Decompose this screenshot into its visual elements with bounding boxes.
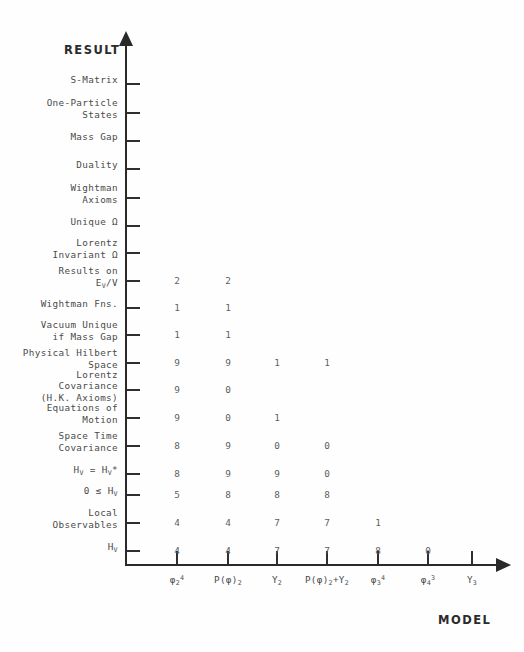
data-cell-hv-phi3-4: 0 <box>425 546 431 556</box>
data-cell-physical-hilbert-space-p-phi-2: 9 <box>225 358 231 368</box>
y-tick-s-matrix <box>127 83 140 85</box>
x-tick-y-3 <box>471 551 473 564</box>
data-cell-local-observables-p-phi-2-plus-y-2: 7 <box>324 518 330 528</box>
x-axis-line <box>125 564 499 566</box>
x-axis-title: MODEL <box>438 612 491 627</box>
data-cell-equations-of-motion-p-phi-2: 0 <box>225 413 231 423</box>
y-tick-wightman-axioms <box>127 197 140 199</box>
data-cell-hv-self-adjoint-p-phi-2-plus-y-2: 0 <box>324 469 330 479</box>
y-axis-label-physical-hilbert-space: Physical HilbertSpace <box>0 347 118 370</box>
y-axis-label-lorentz-invariant-omega: LorentzInvariant Ω <box>0 237 118 260</box>
y-axis-line <box>125 44 127 566</box>
y-tick-duality <box>127 168 140 170</box>
y-tick-hv <box>127 550 140 552</box>
data-cell-physical-hilbert-space-phi4-2: 9 <box>174 358 180 368</box>
y-axis-label-duality: Duality <box>0 159 118 170</box>
data-cell-hv-y-2: 7 <box>274 546 280 556</box>
data-cell-results-on-ev-v-phi4-2: 2 <box>174 276 180 286</box>
x-axis-label-p-phi-2-plus-y-2: P(φ)2+Y2 <box>305 574 349 585</box>
y-axis-arrow-icon <box>119 31 133 46</box>
y-axis-title: RESULT <box>64 42 120 57</box>
y-axis-label-one-particle-states: One-ParticleStates <box>0 97 118 120</box>
data-cell-wightman-fns-phi4-2: 1 <box>174 303 180 313</box>
data-cell-physical-hilbert-space-p-phi-2-plus-y-2: 1 <box>324 358 330 368</box>
x-axis-label-y-3: Y3 <box>467 574 477 585</box>
figure-canvas: RESULT MODEL S-MatrixOne-ParticleStatesM… <box>0 0 524 652</box>
data-cell-lorentz-covariance-phi4-2: 9 <box>174 385 180 395</box>
y-axis-label-hv-positive: 0 ≤ HV <box>0 485 118 496</box>
y-axis-label-results-on-ev-v: Results onEV/V <box>0 265 118 288</box>
data-cell-space-time-covariance-phi4-2: 8 <box>174 441 180 451</box>
y-axis-label-wightman-fns: Wightman Fns. <box>0 298 118 309</box>
x-axis-label-phi4-3: φ34 <box>371 574 386 585</box>
data-cell-local-observables-phi4-3: 1 <box>375 518 381 528</box>
data-cell-lorentz-covariance-p-phi-2: 0 <box>225 385 231 395</box>
data-cell-hv-self-adjoint-y-2: 9 <box>274 469 280 479</box>
y-axis-label-hv: HV <box>0 541 118 552</box>
y-axis-label-mass-gap: Mass Gap <box>0 131 118 142</box>
data-cell-space-time-covariance-p-phi-2-plus-y-2: 0 <box>324 441 330 451</box>
y-axis-label-vacuum-unique-if-mass-gap: Vacuum Uniqueif Mass Gap <box>0 319 118 342</box>
data-cell-physical-hilbert-space-y-2: 1 <box>274 358 280 368</box>
x-axis-arrow-icon <box>496 558 511 572</box>
data-cell-hv-p-phi-2: 4 <box>225 546 231 556</box>
data-cell-hv-self-adjoint-p-phi-2: 9 <box>225 469 231 479</box>
data-cell-space-time-covariance-p-phi-2: 9 <box>225 441 231 451</box>
data-cell-wightman-fns-p-phi-2: 1 <box>225 303 231 313</box>
y-tick-vacuum-unique-if-mass-gap <box>127 334 140 336</box>
y-axis-label-hv-self-adjoint: HV = HV* <box>0 464 118 475</box>
y-tick-mass-gap <box>127 140 140 142</box>
y-tick-space-time-covariance <box>127 445 140 447</box>
data-cell-hv-p-phi-2-plus-y-2: 7 <box>324 546 330 556</box>
y-axis-label-lorentz-covariance: LorentzCovariance(H.K. Axioms) <box>0 369 118 403</box>
y-tick-results-on-ev-v <box>127 280 140 282</box>
y-tick-hv-positive <box>127 494 140 496</box>
data-cell-hv-positive-y-2: 8 <box>274 490 280 500</box>
y-tick-wightman-fns <box>127 307 140 309</box>
x-axis-label-p-phi-2: P(φ)2 <box>214 574 242 585</box>
y-axis-label-space-time-covariance: Space TimeCovariance <box>0 430 118 453</box>
data-cell-hv-self-adjoint-phi4-2: 8 <box>174 469 180 479</box>
x-axis-label-y-2: Y2 <box>272 574 282 585</box>
y-axis-label-unique-omega: Unique Ω <box>0 216 118 227</box>
y-tick-unique-omega <box>127 225 140 227</box>
data-cell-hv-phi4-3: 8 <box>375 546 381 556</box>
y-axis-label-equations-of-motion: Equations ofMotion <box>0 402 118 425</box>
x-axis-label-phi3-4: φ43 <box>421 574 436 585</box>
x-axis-label-phi4-2: φ24 <box>170 574 185 585</box>
data-cell-local-observables-p-phi-2: 4 <box>225 518 231 528</box>
y-tick-one-particle-states <box>127 112 140 114</box>
y-tick-hv-self-adjoint <box>127 473 140 475</box>
y-tick-lorentz-invariant-omega <box>127 252 140 254</box>
data-cell-hv-positive-p-phi-2-plus-y-2: 8 <box>324 490 330 500</box>
data-cell-results-on-ev-v-p-phi-2: 2 <box>225 276 231 286</box>
y-axis-label-local-observables: LocalObservables <box>0 507 118 530</box>
data-cell-equations-of-motion-phi4-2: 9 <box>174 413 180 423</box>
data-cell-vacuum-unique-if-mass-gap-phi4-2: 1 <box>174 330 180 340</box>
data-cell-space-time-covariance-y-2: 0 <box>274 441 280 451</box>
y-tick-lorentz-covariance <box>127 389 140 391</box>
y-tick-equations-of-motion <box>127 417 140 419</box>
data-cell-hv-positive-p-phi-2: 8 <box>225 490 231 500</box>
data-cell-local-observables-phi4-2: 4 <box>174 518 180 528</box>
data-cell-local-observables-y-2: 7 <box>274 518 280 528</box>
y-tick-local-observables <box>127 522 140 524</box>
data-cell-hv-phi4-2: 4 <box>174 546 180 556</box>
data-cell-hv-positive-phi4-2: 5 <box>174 490 180 500</box>
y-axis-label-wightman-axioms: WightmanAxioms <box>0 182 118 205</box>
y-tick-physical-hilbert-space <box>127 362 140 364</box>
y-axis-label-s-matrix: S-Matrix <box>0 74 118 85</box>
data-cell-vacuum-unique-if-mass-gap-p-phi-2: 1 <box>225 330 231 340</box>
data-cell-equations-of-motion-y-2: 1 <box>274 413 280 423</box>
